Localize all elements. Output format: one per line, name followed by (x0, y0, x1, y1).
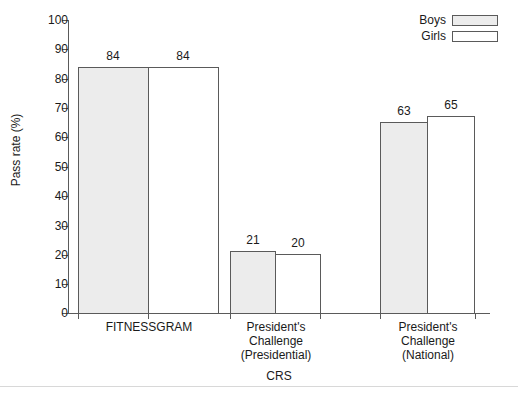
x-category-label-national: President's Challenge (National) (357, 320, 499, 362)
legend-item-girls: Girls (398, 28, 498, 44)
y-tick-label-20: 20 (28, 249, 68, 261)
legend-label-boys: Boys (419, 14, 446, 26)
y-tick-label-50: 50 (28, 161, 68, 173)
y-axis-line (68, 20, 69, 314)
bar-value-national-girls: 65 (421, 99, 481, 111)
x-tick-1 (148, 314, 149, 319)
bar-presidential-boys (230, 251, 276, 314)
bar-national-girls (427, 116, 475, 314)
bar-value-presidential-girls: 20 (268, 237, 328, 249)
x-tick-2 (230, 314, 231, 319)
legend-label-girls: Girls (421, 30, 446, 42)
bar-national-boys (380, 122, 428, 314)
legend-item-boys: Boys (398, 12, 498, 28)
y-axis-title: Pass rate (%) (9, 100, 23, 200)
legend-swatch-girls-icon (452, 31, 498, 42)
bar-value-fitnessgram-boys: 84 (83, 50, 143, 62)
y-tick-label-10: 10 (28, 278, 68, 290)
y-tick-label-60: 60 (28, 131, 68, 143)
y-tick-label-30: 30 (28, 220, 68, 232)
bar-presidential-girls (275, 254, 321, 314)
bar-fitnessgram-boys (78, 67, 149, 314)
x-tick-4 (380, 314, 381, 319)
chart-legend: Boys Girls (398, 12, 498, 44)
bar-chart-figure: 100 90 80 70 60 50 40 30 20 10 0 Pass ra… (0, 0, 518, 398)
x-category-label-presidential: President's Challenge (Presidential) (205, 320, 347, 362)
legend-swatch-boys-icon (452, 15, 498, 26)
x-tick-0 (78, 314, 79, 319)
bar-fitnessgram-girls (148, 67, 219, 314)
y-tick-label-90: 90 (28, 43, 68, 55)
x-axis-title: CRS (68, 369, 490, 383)
x-tick-5 (475, 314, 476, 319)
x-tick-3 (320, 314, 321, 319)
footer-divider (0, 386, 518, 387)
bar-value-fitnessgram-girls: 84 (153, 50, 213, 62)
x-category-label-fitnessgram: FITNESSGRAM (78, 320, 220, 334)
y-tick-label-80: 80 (28, 73, 68, 85)
y-tick-label-0: 0 (28, 307, 68, 319)
y-tick-label-70: 70 (28, 102, 68, 114)
y-tick-label-100: 100 (28, 14, 68, 26)
y-tick-label-40: 40 (28, 190, 68, 202)
